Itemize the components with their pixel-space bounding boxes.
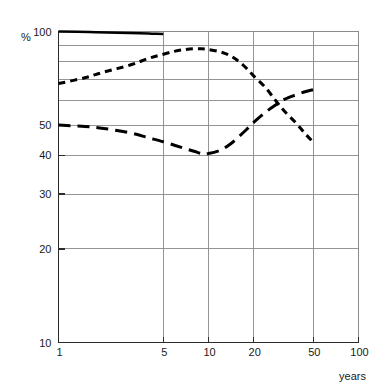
x-tick-label-5: 5 bbox=[161, 346, 167, 358]
y-tick-label-100: 100 bbox=[33, 26, 51, 38]
y-tick-label-10: 10 bbox=[39, 337, 51, 349]
x-tick-label-10: 10 bbox=[203, 346, 215, 358]
y-tick-label-50: 50 bbox=[39, 119, 51, 131]
x-tick-label-50: 50 bbox=[308, 346, 320, 358]
x-axis-title: years bbox=[339, 370, 366, 382]
y-axis-title: % bbox=[21, 31, 31, 43]
log-log-line-chart: 1005040302010 15102050100 % years bbox=[0, 0, 389, 392]
x-tick-label-20: 20 bbox=[249, 346, 261, 358]
chart-container: 1005040302010 15102050100 % years bbox=[0, 0, 389, 392]
x-tick-label-100: 100 bbox=[350, 346, 368, 358]
y-tick-label-40: 40 bbox=[39, 149, 51, 161]
y-tick-label-20: 20 bbox=[39, 243, 51, 255]
y-tick-label-30: 30 bbox=[39, 188, 51, 200]
x-tick-label-1: 1 bbox=[56, 346, 62, 358]
